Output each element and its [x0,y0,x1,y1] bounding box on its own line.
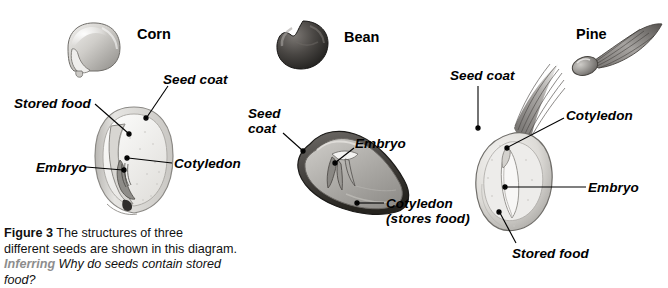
bean-label-cotyledon-line1: Cotyledon [386,196,453,211]
corn-label-cotyledon: Cotyledon [174,156,241,171]
caption-text-line1: The structures of three [56,226,183,240]
pine-cross-section-illustration [462,60,602,250]
figure-caption: Figure 3 The structures of three differe… [4,226,240,288]
bean-title: Bean [344,29,379,45]
pine-label-seed-coat: Seed coat [450,68,515,83]
bean-whole-seed-illustration [272,18,336,74]
corn-whole-seed-illustration [58,18,130,80]
caption-line-2: different seeds are shown in this diagra… [4,242,240,258]
bean-label-seed-coat-line1: Seed [248,106,281,121]
bean-label-cotyledon-stores-food: (stores food) [386,211,470,226]
corn-cross-section-illustration [85,104,183,220]
corn-label-embryo: Embryo [36,160,87,175]
corn-label-stored-food: Stored food [14,96,91,111]
pine-label-stored-food: Stored food [512,246,589,261]
caption-figure-number: Figure 3 [4,226,53,240]
pine-label-cotyledon: Cotyledon [566,108,633,123]
bean-label-seed-coat-line2: coat [248,121,276,136]
caption-line-1: Figure 3 The structures of three [4,226,240,242]
bean-label-embryo: Embryo [355,136,406,151]
caption-skill-label: Inferring [4,257,55,271]
caption-line-3: Inferring Why do seeds contain stored fo… [4,257,240,288]
pine-label-embryo: Embryo [588,180,639,195]
corn-title: Corn [137,26,171,42]
pine-title: Pine [576,26,607,42]
corn-label-seed-coat: Seed coat [163,72,228,87]
